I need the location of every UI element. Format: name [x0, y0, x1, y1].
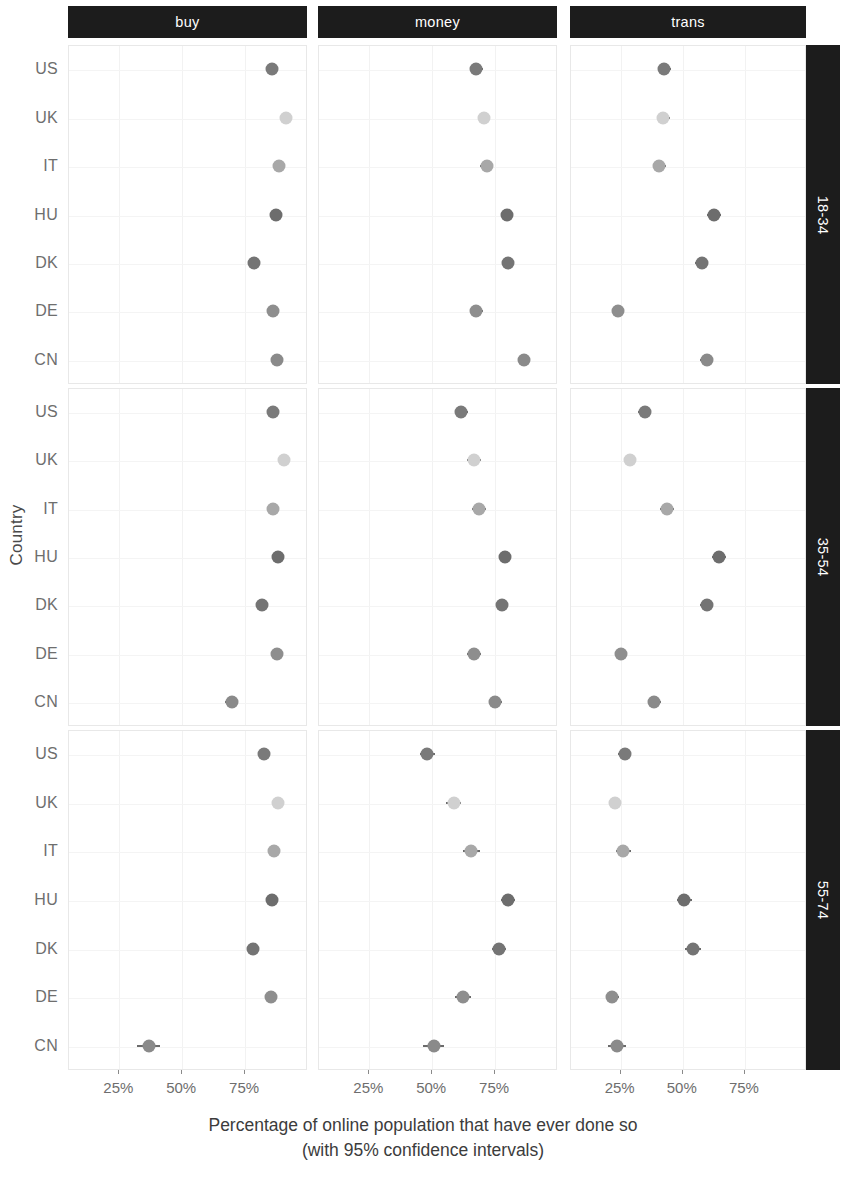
gridline-horizontal	[319, 852, 556, 853]
data-point-trans-18-34-HU[interactable]	[708, 208, 721, 221]
data-point-buy-35-54-US[interactable]	[267, 406, 280, 419]
gridline-horizontal	[571, 361, 805, 362]
data-point-buy-55-74-IT[interactable]	[268, 845, 281, 858]
data-point-trans-35-54-DE[interactable]	[614, 647, 627, 660]
data-point-money-35-54-UK[interactable]	[467, 454, 480, 467]
x-tick-mark	[118, 1070, 119, 1074]
data-point-money-35-54-HU[interactable]	[499, 551, 512, 564]
gridline-vertical	[621, 731, 622, 1069]
gridline-vertical	[245, 731, 246, 1069]
data-point-buy-35-54-HU[interactable]	[272, 551, 285, 564]
data-point-trans-18-34-CN[interactable]	[700, 353, 713, 366]
data-point-trans-35-54-US[interactable]	[638, 406, 651, 419]
data-point-money-18-34-US[interactable]	[470, 63, 483, 76]
gridline-vertical	[495, 731, 496, 1069]
data-point-money-35-54-DK[interactable]	[495, 599, 508, 612]
data-point-money-55-74-UK[interactable]	[447, 796, 460, 809]
gridline-horizontal	[571, 703, 805, 704]
data-point-trans-55-74-CN[interactable]	[611, 1039, 624, 1052]
data-point-money-18-34-DK[interactable]	[501, 256, 514, 269]
data-point-money-18-34-IT[interactable]	[480, 160, 493, 173]
data-point-trans-55-74-US[interactable]	[618, 748, 631, 761]
data-point-buy-35-54-CN[interactable]	[225, 695, 238, 708]
data-point-trans-55-74-UK[interactable]	[608, 796, 621, 809]
gridline-horizontal	[69, 606, 306, 607]
gridline-horizontal	[319, 264, 556, 265]
y-tick-35-54-IT: IT	[2, 500, 58, 518]
gridline-horizontal	[571, 510, 805, 511]
data-point-buy-55-74-DK[interactable]	[246, 942, 259, 955]
data-point-money-55-74-HU[interactable]	[501, 894, 514, 907]
gridline-horizontal	[319, 413, 556, 414]
gridline-vertical	[683, 46, 684, 383]
gridline-horizontal	[319, 703, 556, 704]
data-point-trans-35-54-DK[interactable]	[700, 599, 713, 612]
x-tick-mark	[431, 1070, 432, 1074]
data-point-buy-18-34-IT[interactable]	[273, 160, 286, 173]
data-point-trans-18-34-IT[interactable]	[653, 160, 666, 173]
x-tick-mark	[682, 1070, 683, 1074]
data-point-money-55-74-DK[interactable]	[493, 942, 506, 955]
x-tick-label-trans-75%: 75%	[729, 1079, 759, 1096]
x-tick-label-money-75%: 75%	[479, 1079, 509, 1096]
x-tick-mark	[620, 1070, 621, 1074]
data-point-trans-35-54-UK[interactable]	[623, 454, 636, 467]
gridline-horizontal	[319, 606, 556, 607]
x-tick-label-trans-25%: 25%	[605, 1079, 635, 1096]
data-point-buy-35-54-IT[interactable]	[267, 502, 280, 515]
data-point-buy-35-54-DK[interactable]	[255, 599, 268, 612]
data-point-buy-18-34-DE[interactable]	[267, 305, 280, 318]
data-point-trans-35-54-CN[interactable]	[648, 695, 661, 708]
data-point-money-18-34-CN[interactable]	[518, 353, 531, 366]
data-point-buy-55-74-CN[interactable]	[142, 1039, 155, 1052]
x-tick-mark	[494, 1070, 495, 1074]
data-point-money-55-74-IT[interactable]	[465, 845, 478, 858]
y-tick-55-74-DK: DK	[2, 940, 58, 958]
data-point-buy-18-34-CN[interactable]	[270, 353, 283, 366]
data-point-trans-55-74-DE[interactable]	[606, 991, 619, 1004]
data-point-money-35-54-IT[interactable]	[473, 502, 486, 515]
data-point-money-55-74-CN[interactable]	[427, 1039, 440, 1052]
data-point-money-18-34-UK[interactable]	[478, 111, 491, 124]
data-point-trans-55-74-DK[interactable]	[686, 942, 699, 955]
data-point-buy-35-54-UK[interactable]	[278, 454, 291, 467]
data-point-trans-55-74-IT[interactable]	[617, 845, 630, 858]
data-point-trans-18-34-UK[interactable]	[657, 111, 670, 124]
data-point-buy-55-74-DE[interactable]	[264, 991, 277, 1004]
gridline-horizontal	[319, 998, 556, 999]
data-point-trans-18-34-DE[interactable]	[612, 305, 625, 318]
data-point-buy-18-34-UK[interactable]	[279, 111, 292, 124]
data-point-money-55-74-US[interactable]	[421, 748, 434, 761]
x-tick-mark	[368, 1070, 369, 1074]
gridline-vertical	[745, 731, 746, 1069]
gridline-horizontal	[69, 558, 306, 559]
data-point-money-18-34-DE[interactable]	[470, 305, 483, 318]
y-tick-18-34-US: US	[2, 60, 58, 78]
data-point-buy-18-34-US[interactable]	[265, 63, 278, 76]
data-point-trans-35-54-IT[interactable]	[660, 502, 673, 515]
data-point-money-35-54-US[interactable]	[455, 406, 468, 419]
y-tick-35-54-DK: DK	[2, 596, 58, 614]
data-point-buy-35-54-DE[interactable]	[270, 647, 283, 660]
data-point-buy-18-34-DK[interactable]	[248, 256, 261, 269]
data-point-buy-55-74-HU[interactable]	[265, 894, 278, 907]
data-point-buy-55-74-UK[interactable]	[272, 796, 285, 809]
gridline-horizontal	[319, 70, 556, 71]
data-point-buy-18-34-HU[interactable]	[269, 208, 282, 221]
gridline-horizontal	[319, 461, 556, 462]
data-point-money-35-54-DE[interactable]	[467, 647, 480, 660]
data-point-money-55-74-DE[interactable]	[456, 991, 469, 1004]
data-point-trans-18-34-DK[interactable]	[695, 256, 708, 269]
data-point-money-35-54-CN[interactable]	[489, 695, 502, 708]
data-point-trans-18-34-US[interactable]	[658, 63, 671, 76]
gridline-vertical	[621, 389, 622, 725]
y-tick-18-34-DK: DK	[2, 254, 58, 272]
data-point-trans-35-54-HU[interactable]	[713, 551, 726, 564]
data-point-trans-55-74-HU[interactable]	[678, 894, 691, 907]
gridline-vertical	[495, 389, 496, 725]
data-point-buy-55-74-US[interactable]	[258, 748, 271, 761]
gridline-vertical	[182, 731, 183, 1069]
y-tick-55-74-DE: DE	[2, 988, 58, 1006]
data-point-money-18-34-HU[interactable]	[500, 208, 513, 221]
gridline-horizontal	[571, 655, 805, 656]
